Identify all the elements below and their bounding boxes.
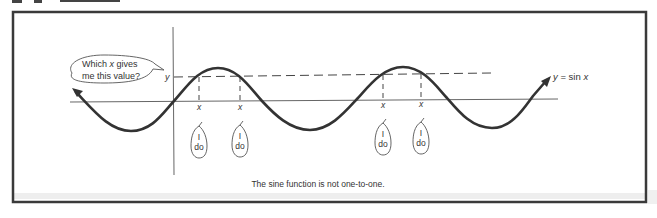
svg-text:do: do: [416, 138, 426, 148]
svg-text:me this value?: me this value?: [82, 71, 140, 81]
svg-text:x: x: [196, 102, 202, 112]
cut-off-heading: [12, 0, 120, 3]
y-value-label: y: [164, 72, 170, 82]
sine-not-one-to-one-figure: y = sin x y Which x gives me this value?…: [0, 0, 657, 218]
figure-frame: [13, 12, 646, 202]
right-shade-band: [648, 190, 657, 204]
answer-bubble: I do: [413, 118, 429, 154]
svg-text:x: x: [237, 102, 243, 112]
svg-text:I: I: [420, 128, 422, 138]
function-label: y = sin x: [552, 71, 589, 82]
svg-text:I: I: [239, 131, 241, 141]
sine-curve: [76, 67, 546, 131]
thought-bubble: Which x gives me this value?: [71, 55, 164, 83]
svg-text:x: x: [380, 100, 386, 110]
svg-text:I: I: [382, 129, 384, 139]
answer-bubble: I do: [232, 121, 248, 157]
left-arrowhead-icon: [72, 88, 83, 97]
x-axis: [70, 99, 558, 102]
x-dashed-drops: [199, 74, 421, 101]
svg-text:Which x gives: Which x gives: [82, 59, 138, 69]
y-value-dashed-line: [174, 73, 491, 77]
svg-text:do: do: [235, 141, 245, 151]
svg-text:I: I: [198, 132, 200, 142]
svg-text:x: x: [418, 99, 424, 109]
bottom-shade-band: [14, 193, 646, 199]
answer-bubble: I do: [191, 122, 207, 158]
svg-text:do: do: [378, 139, 388, 149]
figure-caption: The sine function is not one-to-one.: [251, 179, 384, 189]
svg-text:do: do: [194, 142, 204, 152]
answer-bubble: I do: [375, 119, 391, 155]
